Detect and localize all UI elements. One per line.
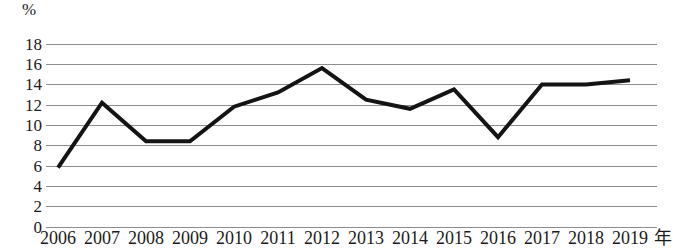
x-tick-label-2011: 2011 — [260, 228, 295, 248]
x-tick-label-2009: 2009 — [172, 228, 208, 248]
x-axis-tick-labels: 2006200720082009201020112012201320142015… — [0, 0, 687, 250]
x-tick-label-2013: 2013 — [348, 228, 384, 248]
x-tick-label-2007: 2007 — [84, 228, 120, 248]
x-tick-label-2012: 2012 — [304, 228, 340, 248]
x-axis-unit-label: 年 — [654, 228, 672, 248]
x-tick-label-2008: 2008 — [128, 228, 164, 248]
x-tick-label-2006: 2006 — [40, 228, 76, 248]
x-tick-label-2015: 2015 — [436, 228, 472, 248]
x-tick-label-2019: 2019 — [612, 228, 648, 248]
line-chart: % 024681012141618 2006200720082009201020… — [0, 0, 687, 250]
x-tick-label-2014: 2014 — [392, 228, 428, 248]
x-tick-label-2018: 2018 — [568, 228, 604, 248]
x-tick-label-2017: 2017 — [524, 228, 560, 248]
x-tick-label-2010: 2010 — [216, 228, 252, 248]
x-tick-label-2016: 2016 — [480, 228, 516, 248]
